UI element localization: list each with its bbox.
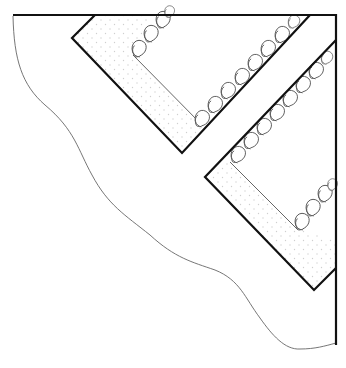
lace-trim-lower-short — [291, 177, 340, 233]
upper-band-fill — [72, 15, 206, 153]
figure-canvas — [0, 0, 346, 368]
wavy-edge — [13, 16, 336, 349]
outer-border — [13, 15, 336, 345]
lace-trim-lower-long — [226, 49, 335, 166]
lace-trim-upper-long — [190, 13, 302, 130]
lower-band-fill — [205, 153, 336, 290]
